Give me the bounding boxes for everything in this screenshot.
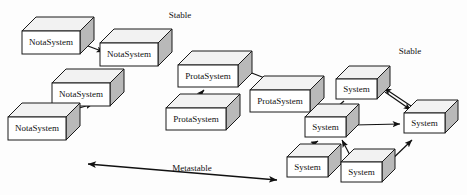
- system-box: ProtaSystem: [178, 51, 252, 87]
- flow-arrow: [384, 88, 411, 106]
- system-box: System: [341, 149, 395, 182]
- box-label: ProtaSystem: [185, 71, 231, 81]
- system-box: ProtaSystem: [250, 76, 324, 112]
- flow-arrow: [354, 124, 400, 125]
- box-label: ProtaSystem: [173, 114, 219, 124]
- box-label: NotaSystem: [29, 37, 73, 47]
- box-label: System: [312, 122, 339, 132]
- box-label: NotaSystem: [59, 89, 103, 99]
- system-box: System: [305, 104, 359, 137]
- system-box: NotaSystem: [22, 17, 94, 54]
- system-box: NotaSystem: [100, 29, 172, 66]
- system-box: System: [336, 66, 390, 99]
- system-box: System: [287, 144, 341, 177]
- box-label: NotaSystem: [107, 49, 151, 59]
- system-box: ProtaSystem: [166, 94, 240, 130]
- system-box: NotaSystem: [52, 69, 124, 106]
- system-box: System: [404, 100, 458, 133]
- diagram-canvas: NotaSystemNotaSystemNotaSystemNotaSystem…: [0, 0, 467, 195]
- box-label: System: [411, 118, 438, 128]
- system-box: NotaSystem: [8, 103, 80, 140]
- caption-stable-right: Stable: [399, 46, 422, 56]
- caption-stable-left: Stable: [169, 10, 192, 20]
- box-label: NotaSystem: [15, 123, 59, 133]
- box-layer: NotaSystemNotaSystemNotaSystemNotaSystem…: [8, 17, 458, 182]
- box-label: System: [294, 162, 321, 172]
- flow-arrow: [385, 92, 411, 110]
- box-label: ProtaSystem: [257, 96, 303, 106]
- diagram-svg: NotaSystemNotaSystemNotaSystemNotaSystem…: [0, 0, 467, 195]
- box-label: System: [343, 84, 370, 94]
- box-label: System: [348, 167, 375, 177]
